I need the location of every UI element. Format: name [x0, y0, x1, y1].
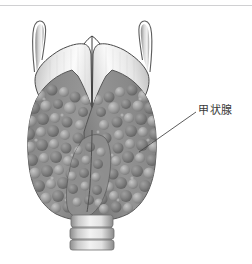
thyroid-anatomy-illustration [0, 0, 252, 264]
figure-canvas: 甲状腺 [0, 0, 252, 264]
trachea-icon [70, 215, 114, 250]
annotation-label-thyroid-gland: 甲状腺 [198, 104, 233, 117]
